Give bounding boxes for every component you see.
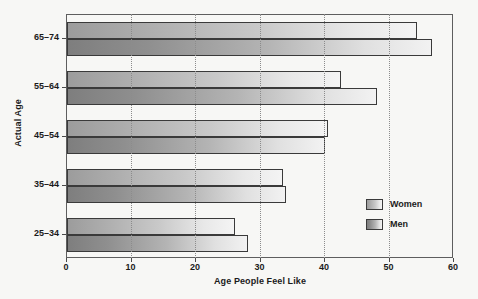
legend-item-women[interactable]: Women [366, 194, 422, 214]
legend-swatch-women-icon [366, 199, 383, 210]
y-tick-label: 45–54 [4, 130, 59, 140]
y-tick-label: 25–34 [4, 228, 59, 238]
gridline [131, 14, 132, 258]
gridline [260, 14, 261, 258]
bar-women[interactable] [67, 218, 235, 235]
bar-women[interactable] [67, 169, 283, 186]
bar-men[interactable] [67, 186, 286, 203]
x-tick-label: 40 [304, 262, 344, 272]
y-tick-label: 35–44 [4, 179, 59, 189]
legend: Women Men [366, 194, 422, 234]
y-tick-mark [62, 87, 66, 88]
x-tick-label: 30 [240, 262, 280, 272]
y-tick-mark [62, 38, 66, 39]
legend-label-women: Women [390, 199, 422, 209]
x-tick-label: 10 [111, 262, 151, 272]
x-tick-label: 20 [175, 262, 215, 272]
y-tick-mark [62, 185, 66, 186]
y-tick-label: 65–74 [4, 32, 59, 42]
bar-chart: Actual Age 0102030405060 65–7455–6445–54… [0, 0, 478, 299]
bar-men[interactable] [67, 39, 432, 56]
y-tick-mark [62, 234, 66, 235]
x-tick-label: 0 [46, 262, 86, 272]
legend-swatch-men-icon [366, 219, 383, 230]
x-axis-title: Age People Feel Like [66, 276, 454, 286]
bar-men[interactable] [67, 137, 325, 154]
x-tick-label: 60 [433, 262, 473, 272]
y-tick-mark [62, 136, 66, 137]
legend-item-men[interactable]: Men [366, 214, 422, 234]
x-tick-label: 50 [369, 262, 409, 272]
y-tick-label: 55–64 [4, 81, 59, 91]
gridline [195, 14, 196, 258]
gridline [324, 14, 325, 258]
legend-label-men: Men [390, 219, 408, 229]
bar-men[interactable] [67, 88, 377, 105]
bar-men[interactable] [67, 235, 248, 252]
bar-women[interactable] [67, 22, 417, 39]
bar-women[interactable] [67, 71, 341, 88]
bar-women[interactable] [67, 120, 328, 137]
